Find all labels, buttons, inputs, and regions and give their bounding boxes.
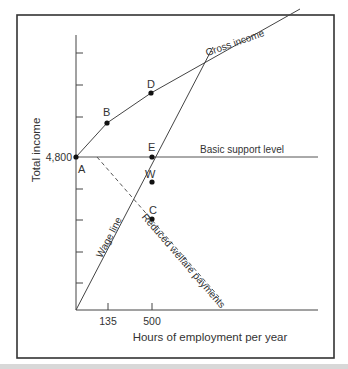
diagram: A B D E W C 4,800 135 500 Total income H… xyxy=(0,0,348,369)
point-e xyxy=(149,154,154,159)
x-tick-label-135: 135 xyxy=(99,315,117,327)
x-axis-title: Hours of employment per year xyxy=(133,331,288,343)
x-tick-label-500: 500 xyxy=(143,315,161,327)
point-b xyxy=(104,120,109,125)
point-label-e: E xyxy=(148,141,155,153)
point-label-w: W xyxy=(145,168,156,180)
point-label-b: B xyxy=(103,106,110,118)
bottom-divider xyxy=(0,364,348,369)
basic-support-label: Basic support level xyxy=(200,144,284,155)
reduced-welfare-label: Reduced welfare payments xyxy=(140,211,228,310)
gross-income-label: Gross income xyxy=(204,27,266,58)
wage-line-label: Wage line xyxy=(94,215,124,260)
point-d xyxy=(148,90,153,95)
gross-income-line xyxy=(76,9,300,157)
frame-border xyxy=(17,15,334,358)
point-w xyxy=(149,179,154,184)
point-label-a: A xyxy=(78,163,86,175)
point-a xyxy=(73,154,78,159)
y-tick-label-4800: 4,800 xyxy=(46,151,72,163)
y-axis-title: Total income xyxy=(30,118,42,183)
point-label-d: D xyxy=(147,78,155,90)
